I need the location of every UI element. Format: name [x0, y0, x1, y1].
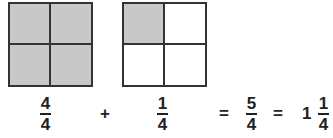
- mixed-whole-number: 1: [302, 104, 311, 124]
- quarter-cell: [51, 4, 92, 45]
- quarter-cell: [165, 45, 206, 86]
- plus-sign: +: [100, 104, 110, 124]
- numerator: 4: [41, 96, 50, 111]
- quarter-cell: [51, 45, 92, 86]
- denominator: 4: [247, 117, 256, 132]
- fraction-square-2: [122, 2, 207, 87]
- quarter-cell: [10, 45, 51, 86]
- numerator: 1: [158, 96, 167, 111]
- denominator: 4: [319, 117, 328, 132]
- equals-sign: =: [273, 104, 283, 124]
- quarter-cell: [10, 4, 51, 45]
- fraction-one-fourth: 1 4: [157, 96, 168, 132]
- equals-sign: =: [219, 104, 229, 124]
- quarter-cell: [165, 4, 206, 45]
- mixed-fraction-part: 1 4: [318, 96, 329, 132]
- quarter-cell: [124, 45, 165, 86]
- numerator: 1: [319, 96, 328, 111]
- denominator: 4: [41, 117, 50, 132]
- quarter-cell: [124, 4, 165, 45]
- fraction-square-1: [8, 2, 93, 87]
- fraction-five-fourths: 5 4: [246, 96, 257, 132]
- numerator: 5: [247, 96, 256, 111]
- fraction-four-fourths: 4 4: [40, 96, 51, 132]
- denominator: 4: [158, 117, 167, 132]
